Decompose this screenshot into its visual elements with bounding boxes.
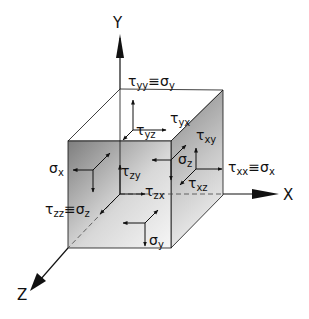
x-axis-label: X (283, 186, 293, 204)
diagram-canvas: Y X Z τyy≡σy (0, 0, 309, 319)
label-tzz: τzz≡σz (45, 201, 90, 219)
label-txx: τxx≡σx (228, 159, 275, 177)
x-axis-arrow-icon (252, 189, 279, 199)
z-axis-label: Z (17, 286, 27, 304)
label-sx: σx (49, 160, 64, 178)
y-axis-label: Y (112, 14, 123, 32)
label-tyy: τyy≡σy (128, 73, 175, 91)
stress-cube-diagram: Y X Z τyy≡σy (0, 0, 309, 319)
y-axis-arrow-icon (116, 34, 124, 58)
z-axis (40, 248, 68, 280)
